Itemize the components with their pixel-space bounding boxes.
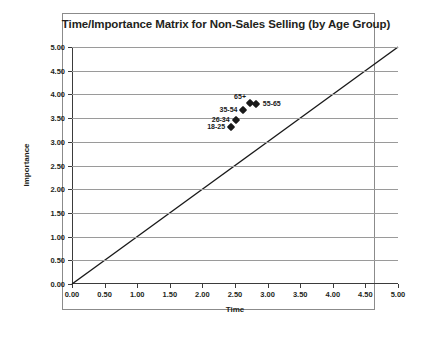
x-tick xyxy=(170,284,171,288)
y-tick xyxy=(68,47,72,48)
x-tick-label: 0.00 xyxy=(65,290,80,299)
x-tick xyxy=(72,284,73,288)
x-tick-label: 1.00 xyxy=(130,290,145,299)
gridline-y xyxy=(72,189,398,190)
x-tick-label: 2.00 xyxy=(195,290,210,299)
y-tick-label: 0.00 xyxy=(50,280,65,289)
x-tick-label: 4.00 xyxy=(325,290,340,299)
plot-area: 0.000.501.001.502.002.503.003.504.004.50… xyxy=(72,47,398,284)
gridline-y xyxy=(72,47,398,48)
data-point-label: 55-65 xyxy=(263,100,281,107)
y-tick-label: 5.00 xyxy=(50,43,65,52)
gridline-y xyxy=(72,166,398,167)
data-point-label: 65+ xyxy=(234,93,246,100)
y-tick xyxy=(68,94,72,95)
x-tick xyxy=(365,284,366,288)
data-point-label: 18-25 xyxy=(207,123,225,130)
gridline-y xyxy=(72,213,398,214)
gridline-y xyxy=(72,142,398,143)
y-tick xyxy=(68,71,72,72)
x-tick-label: 2.50 xyxy=(228,290,243,299)
x-tick-label: 0.50 xyxy=(97,290,112,299)
x-tick-label: 5.00 xyxy=(391,290,406,299)
gridline-y xyxy=(72,260,398,261)
x-tick xyxy=(300,284,301,288)
y-axis-title: Importance xyxy=(22,143,31,186)
y-tick-label: 2.00 xyxy=(50,185,65,194)
x-tick-label: 1.50 xyxy=(162,290,177,299)
x-tick xyxy=(137,284,138,288)
y-tick xyxy=(68,142,72,143)
y-tick-label: 1.50 xyxy=(50,208,65,217)
y-tick-label: 3.00 xyxy=(50,137,65,146)
y-tick xyxy=(68,189,72,190)
gridline-y xyxy=(72,237,398,238)
y-tick xyxy=(68,166,72,167)
y-tick xyxy=(68,118,72,119)
y-tick-label: 3.50 xyxy=(50,114,65,123)
y-tick xyxy=(68,260,72,261)
chart-title: Time/Importance Matrix for Non-Sales Sel… xyxy=(46,18,406,30)
gridline-y xyxy=(72,71,398,72)
y-tick-label: 4.50 xyxy=(50,66,65,75)
x-tick xyxy=(268,284,269,288)
y-tick xyxy=(68,213,72,214)
x-tick xyxy=(105,284,106,288)
x-tick xyxy=(235,284,236,288)
x-axis-title: Time xyxy=(72,305,398,314)
x-tick-label: 3.00 xyxy=(260,290,275,299)
data-point-label: 35-54 xyxy=(220,106,238,113)
x-tick-label: 3.50 xyxy=(293,290,308,299)
x-tick xyxy=(333,284,334,288)
x-tick-label: 4.50 xyxy=(358,290,373,299)
x-tick xyxy=(202,284,203,288)
y-tick-label: 0.50 xyxy=(50,256,65,265)
y-tick-label: 2.50 xyxy=(50,161,65,170)
y-tick xyxy=(68,237,72,238)
x-tick xyxy=(398,284,399,288)
y-tick-label: 1.00 xyxy=(50,232,65,241)
y-tick-label: 4.00 xyxy=(50,90,65,99)
